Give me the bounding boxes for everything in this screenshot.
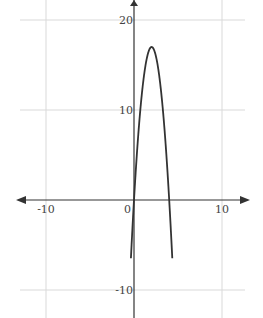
y-tick-label: 10 [119, 104, 133, 117]
y-tick-label: 20 [119, 14, 133, 27]
x-tick-label: 0 [124, 203, 131, 216]
graph: -100102010-10 [0, 0, 263, 318]
y-axis-up-arrow-icon [130, 0, 138, 6]
x-axis-right-arrow-icon [240, 196, 250, 204]
x-tick-label: 10 [215, 203, 229, 216]
y-tick-label: -10 [115, 284, 133, 297]
function-curve [131, 47, 172, 258]
x-axis-left-arrow-icon [16, 196, 26, 204]
x-tick-label: -10 [37, 203, 55, 216]
plot-area: -100102010-10 [0, 0, 263, 318]
